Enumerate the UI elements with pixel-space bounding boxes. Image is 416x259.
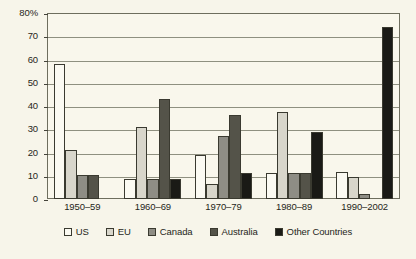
bar bbox=[382, 27, 393, 199]
y-tick-label: 0 bbox=[33, 194, 38, 204]
bar bbox=[159, 99, 170, 199]
bar bbox=[359, 194, 370, 199]
y-tick-label: 70 bbox=[28, 32, 38, 42]
legend-item: Australia bbox=[210, 227, 258, 237]
y-tick-label: 30 bbox=[28, 125, 38, 135]
bar-group bbox=[329, 13, 400, 199]
bar-chart: 01020304050607080% 1950–591960–691970–79… bbox=[0, 0, 416, 259]
legend-swatch-icon bbox=[106, 228, 114, 236]
y-tick-label: 60 bbox=[28, 55, 38, 65]
legend-label: US bbox=[76, 227, 89, 237]
bar bbox=[241, 173, 252, 199]
legend-item: Canada bbox=[148, 227, 193, 237]
legend-swatch-icon bbox=[64, 228, 72, 236]
bars-layer bbox=[47, 13, 400, 199]
bar bbox=[88, 175, 99, 199]
bar bbox=[170, 179, 181, 199]
bar-group bbox=[118, 13, 189, 199]
legend-label: Australia bbox=[222, 227, 258, 237]
y-tick-label: 10 bbox=[28, 171, 38, 181]
y-axis: 01020304050607080% bbox=[0, 0, 44, 259]
legend-label: Canada bbox=[160, 227, 193, 237]
legend-label: Other Countries bbox=[287, 227, 353, 237]
bar bbox=[218, 136, 229, 199]
x-tick-label: 1970–79 bbox=[205, 201, 241, 212]
legend-item: EU bbox=[106, 227, 131, 237]
x-tick-label: 1980–89 bbox=[276, 201, 312, 212]
bar bbox=[65, 150, 76, 199]
bar bbox=[277, 112, 288, 199]
legend-swatch-icon bbox=[210, 228, 218, 236]
y-tick-label: 80% bbox=[19, 8, 38, 18]
x-tick-label: 1950–59 bbox=[64, 201, 100, 212]
bar bbox=[136, 127, 147, 199]
bar bbox=[266, 173, 277, 199]
legend-item: Other Countries bbox=[275, 227, 353, 237]
bar bbox=[54, 64, 65, 199]
x-tick-label: 1960–69 bbox=[135, 201, 171, 212]
y-tick-label: 40 bbox=[28, 101, 38, 111]
legend-swatch-icon bbox=[275, 228, 283, 236]
bar bbox=[195, 155, 206, 199]
bar-group bbox=[47, 13, 118, 199]
bar bbox=[300, 173, 311, 199]
bar bbox=[348, 177, 359, 199]
bar bbox=[147, 179, 158, 199]
bar-group bbox=[259, 13, 330, 199]
bar bbox=[124, 179, 135, 199]
x-tick-label: 1990–2002 bbox=[341, 201, 388, 212]
y-tick-label: 50 bbox=[28, 78, 38, 88]
legend-swatch-icon bbox=[148, 228, 156, 236]
x-axis: 1950–591960–691970–791980–891990–2002 bbox=[47, 201, 400, 217]
bar bbox=[229, 115, 240, 199]
bar bbox=[288, 173, 299, 199]
legend-item: US bbox=[64, 227, 89, 237]
chart-legend: USEUCanadaAustraliaOther Countries bbox=[0, 227, 416, 237]
bar bbox=[336, 172, 347, 199]
bar-group bbox=[188, 13, 259, 199]
bar bbox=[77, 175, 88, 199]
bar bbox=[311, 132, 322, 199]
y-tick-label: 20 bbox=[28, 148, 38, 158]
legend-label: EU bbox=[118, 227, 131, 237]
bar bbox=[206, 184, 217, 199]
